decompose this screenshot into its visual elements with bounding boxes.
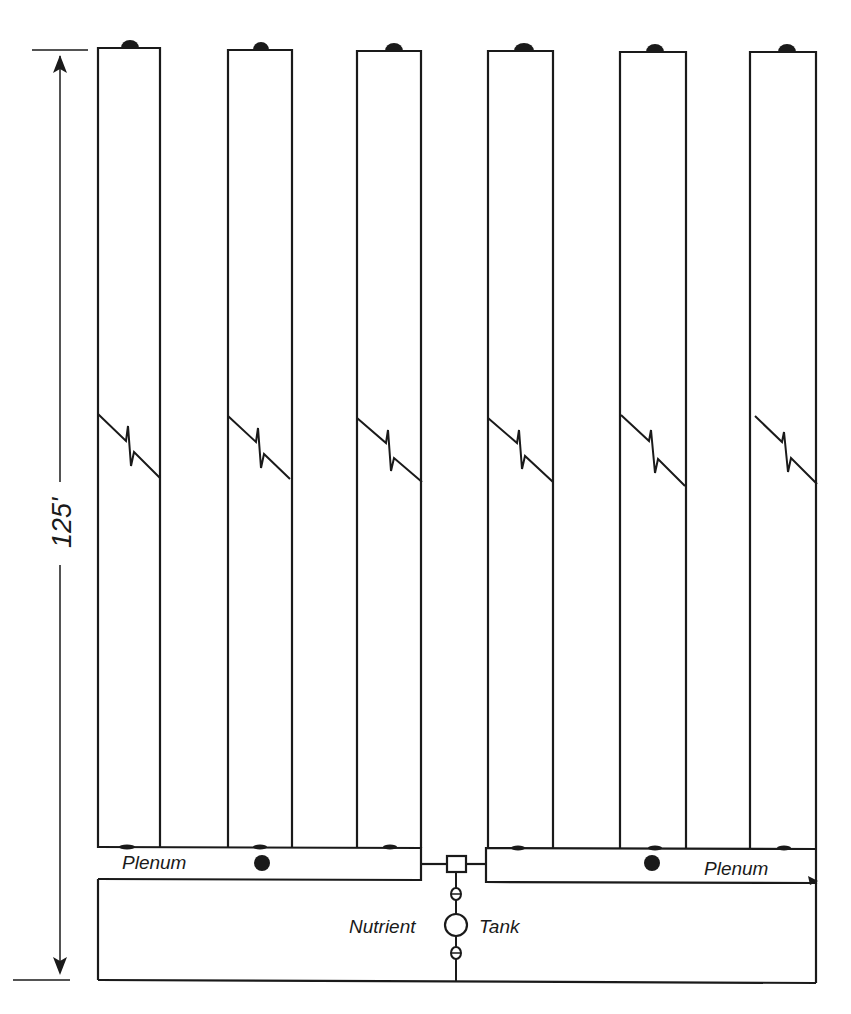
break-symbol-icon bbox=[228, 416, 290, 479]
break-symbol-icon bbox=[621, 415, 685, 486]
break-symbol-icon bbox=[357, 418, 422, 482]
growing-channels bbox=[98, 40, 817, 851]
manifold-box-icon bbox=[447, 856, 466, 872]
nutrient-tank-assembly: Nutrient Tank bbox=[349, 856, 521, 982]
channel-3 bbox=[357, 43, 422, 850]
plenum-left-label: Plenum bbox=[122, 852, 186, 873]
channel-cap-icon bbox=[385, 43, 403, 51]
channel-6 bbox=[750, 44, 817, 851]
channel-cap-icon bbox=[514, 43, 534, 51]
break-symbol-icon bbox=[488, 418, 553, 482]
channel-cap-icon bbox=[253, 42, 269, 50]
plenum-right: Plenum bbox=[486, 848, 818, 885]
break-symbol-icon bbox=[755, 416, 817, 484]
hydroponic-system-diagram: 125' bbox=[0, 0, 851, 1014]
channel-cap-icon bbox=[121, 40, 139, 48]
channel-5 bbox=[620, 44, 686, 851]
break-symbol-icon bbox=[98, 414, 160, 478]
nutrient-label: Nutrient bbox=[349, 916, 416, 937]
channel-cap-icon bbox=[778, 44, 796, 52]
dimension-indicator: 125' bbox=[13, 50, 88, 980]
plenum-right-label: Plenum bbox=[704, 858, 768, 879]
channel-cap-icon bbox=[646, 44, 664, 52]
drain-dot-icon bbox=[644, 855, 660, 871]
channel-1 bbox=[98, 40, 160, 850]
tank-label: Tank bbox=[479, 916, 521, 937]
pump-icon bbox=[445, 914, 467, 936]
drain-dot-icon bbox=[254, 855, 270, 871]
plenum-left: Plenum bbox=[98, 847, 421, 880]
channel-4 bbox=[488, 43, 553, 851]
dimension-label: 125' bbox=[47, 497, 77, 548]
channel-2 bbox=[228, 42, 292, 850]
